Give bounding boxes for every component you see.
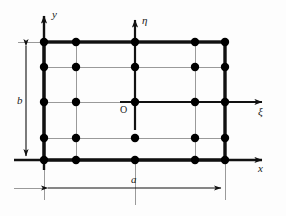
mesh-node [131, 134, 139, 142]
mesh-node [40, 63, 48, 71]
mesh-node [191, 98, 199, 106]
mesh-node-origin [131, 98, 139, 106]
mesh-node [40, 38, 48, 46]
mesh-node [191, 63, 199, 71]
dimension-label-b: b [17, 95, 23, 106]
xi-axis-label: ξ [258, 106, 263, 117]
mesh-node [72, 156, 80, 164]
mesh-node [221, 134, 229, 142]
mesh-diagram-canvas [0, 0, 286, 216]
mesh-node [221, 98, 229, 106]
y-axis-label: y [52, 9, 57, 20]
mesh-node [191, 156, 199, 164]
dimension-label-a: a [131, 174, 137, 185]
mesh-node [40, 98, 48, 106]
mesh-node [221, 63, 229, 71]
local-axes [120, 20, 262, 130]
mesh-node [191, 38, 199, 46]
x-axis-label: x [258, 163, 263, 174]
mesh-node [131, 38, 139, 46]
mesh-node [131, 156, 139, 164]
mesh-node [72, 63, 80, 71]
mesh-node [191, 134, 199, 142]
origin-label: O [120, 105, 127, 115]
mesh-node [72, 38, 80, 46]
mesh-node [72, 134, 80, 142]
eta-axis-label: η [142, 15, 147, 26]
mesh-node [131, 63, 139, 71]
mesh-node [40, 134, 48, 142]
mesh-node [72, 98, 80, 106]
mesh-node [221, 156, 229, 164]
figure-container: y x η ξ O a b [0, 0, 286, 216]
mesh-node [40, 156, 48, 164]
mesh-node [221, 38, 229, 46]
